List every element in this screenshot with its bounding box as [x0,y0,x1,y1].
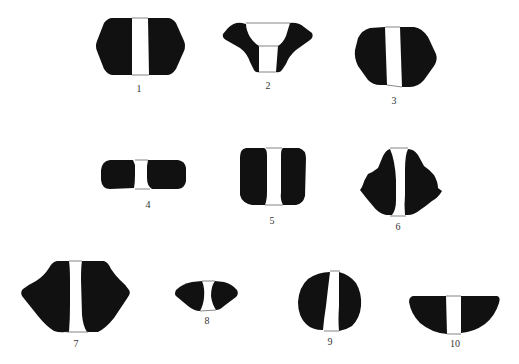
profile-8: 8 [175,281,238,326]
profile-1-right-half [148,18,185,75]
profile-6-right-half [405,149,443,215]
profile-9-right-half [339,272,362,331]
profile-4: 4 [101,160,186,210]
profile-10-right-half [461,296,500,333]
profile-7-left-half [21,261,70,332]
profile-2-left-half [223,23,259,72]
profile-7-label: 7 [74,338,79,349]
profile-8-left-half [175,281,204,311]
profile-3-left-half [355,27,387,85]
profile-8-bottom-line [200,310,216,311]
profile-3-bottom-line [387,85,402,87]
profile-9: 9 [298,271,361,347]
profile-5-left-half [240,148,267,205]
profile-10-label: 10 [450,338,460,349]
profile-10: 10 [409,296,500,349]
profile-4-label: 4 [146,199,151,210]
profile-4-left-half [101,160,135,189]
profile-1-label: 1 [137,83,142,94]
profile-6: 6 [360,148,442,232]
profile-3: 3 [355,27,437,106]
profile-10-left-half [409,296,447,334]
profiles-figure: 1 2 3 4 5 6 [0,0,519,364]
profile-2: 2 [223,23,313,91]
profile-6-label: 6 [396,221,401,232]
profile-3-label: 3 [392,95,397,106]
profile-2-right-half [276,23,313,72]
profile-9-label: 9 [328,336,333,347]
profile-5-label: 5 [270,215,275,226]
profile-7: 7 [21,261,130,349]
profile-4-right-half [147,160,186,189]
profile-8-label: 8 [205,315,210,326]
profile-1-left-half [96,18,132,75]
profile-3-right-half [400,27,437,87]
profile-8-right-half [211,281,238,310]
profile-5: 5 [240,148,306,226]
profile-2-label: 2 [266,80,271,91]
profile-5-right-half [281,148,306,205]
profile-1: 1 [96,18,185,94]
profile-7-right-half [81,261,130,332]
profile-6-left-half [360,149,396,215]
profile-9-left-half [298,272,330,330]
